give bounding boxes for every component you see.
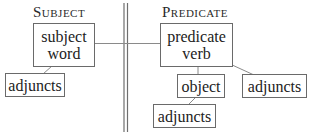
predicate-verb-line2: verb: [182, 45, 210, 62]
predicate-header: Predicate: [162, 5, 228, 20]
predicate-verb-box: predicate verb: [160, 23, 233, 67]
object-label: object: [181, 78, 220, 95]
predicate-adjuncts-label: adjuncts: [248, 78, 301, 95]
subject-word-line2: word: [48, 45, 81, 62]
predicate-verb-line1: predicate: [167, 28, 226, 45]
subject-adjuncts-label: adjuncts: [8, 77, 61, 94]
sentence-structure-diagram: Subject Predicate subject word predicate…: [0, 0, 310, 135]
predicate-adjuncts-box: adjuncts: [242, 74, 307, 98]
object-box: object: [177, 74, 225, 98]
subject-word-line1: subject: [41, 28, 86, 45]
object-adjuncts-label: adjuncts: [158, 108, 211, 125]
subject-adjuncts-box: adjuncts: [5, 73, 65, 97]
subject-header: Subject: [33, 5, 85, 20]
object-adjuncts-box: adjuncts: [153, 104, 216, 128]
subject-word-box: subject word: [33, 23, 95, 67]
